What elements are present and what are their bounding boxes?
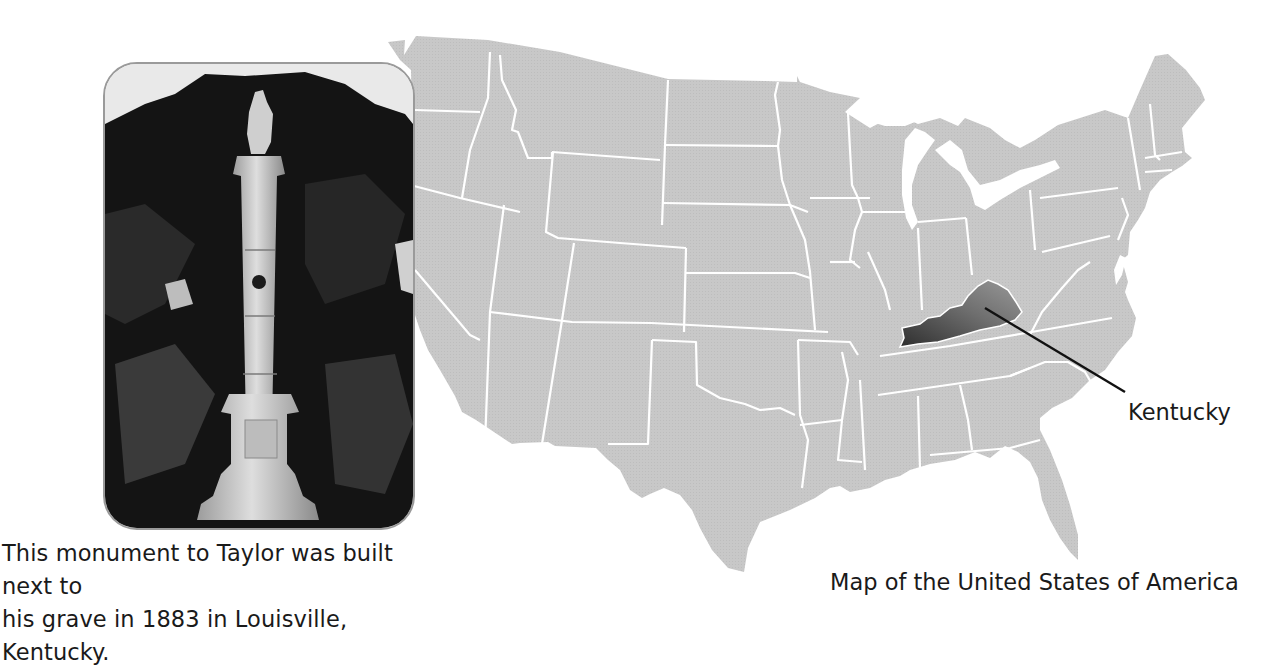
monument-photo-illustration bbox=[105, 64, 413, 528]
us-landmass bbox=[388, 36, 1205, 572]
photo-caption-line-2: his grave in 1883 in Louisville, Kentuck… bbox=[2, 603, 422, 669]
photo-caption: This monument to Taylor was built next t… bbox=[2, 537, 422, 669]
map-caption: Map of the United States of America bbox=[830, 566, 1275, 599]
kentucky-label: Kentucky bbox=[1128, 396, 1231, 429]
monument-photo bbox=[103, 62, 415, 530]
photo-caption-line-1: This monument to Taylor was built next t… bbox=[2, 537, 422, 603]
